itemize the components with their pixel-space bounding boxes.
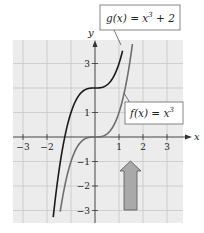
y-axis-label: y: [87, 27, 94, 38]
y-tick-label: 1: [84, 108, 90, 118]
f-callout-label: f(x) = x3: [129, 106, 174, 119]
y-tick-label: −2: [77, 181, 90, 191]
x-tick-label: 3: [164, 142, 170, 152]
x-tick-label: 1: [116, 142, 122, 152]
y-tick-label: −3: [77, 206, 91, 216]
y-tick-label: 3: [84, 59, 90, 69]
x-tick-label: 2: [140, 142, 146, 152]
g-callout: g(x) = x3 + 2: [100, 5, 180, 45]
x-axis-arrow-icon: [185, 135, 192, 140]
grid-background: [13, 40, 183, 223]
x-tick-label: −2: [40, 142, 53, 152]
g-callout-label: g(x) = x3 + 2: [106, 11, 175, 24]
y-tick-label: −1: [77, 157, 90, 167]
x-axis-label: x: [194, 131, 200, 142]
graph-figure: −3−212331−1−2−3 g(x) = x3 + 2 f(x) = x3 …: [0, 0, 204, 233]
x-tick-label: −3: [16, 142, 30, 152]
